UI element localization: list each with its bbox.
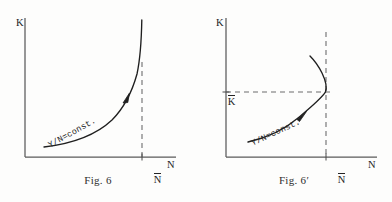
figure-panel-fig-6: K N N Y/N=const. Fig. 6 bbox=[0, 0, 196, 202]
y-tick-label-kbar: K bbox=[212, 84, 235, 118]
isoquant-curve bbox=[44, 20, 142, 147]
figure-sheet: K N N Y/N=const. Fig. 6 bbox=[0, 0, 392, 202]
figure-caption: Fig. 6 bbox=[0, 174, 196, 186]
figure-panel-fig-6-prime: K N N K Y/N=const. Fig. 6′ bbox=[196, 0, 392, 202]
x-axis-label: N bbox=[167, 160, 175, 171]
figure-caption: Fig. 6′ bbox=[196, 174, 392, 186]
x-axis-label: N bbox=[368, 160, 376, 171]
y-axis-label: K bbox=[216, 18, 224, 29]
curve-direction-arrow bbox=[123, 93, 130, 103]
fig-6-drawing bbox=[0, 0, 196, 202]
y-tick-label-kbar-text: K bbox=[228, 95, 236, 107]
y-axis-label: K bbox=[16, 18, 24, 29]
